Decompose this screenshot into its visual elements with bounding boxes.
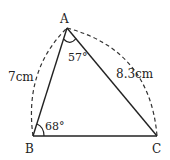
angle-arc-a <box>64 39 77 43</box>
vertex-label-a: A <box>59 12 69 26</box>
angle-label-a: 57° <box>68 51 88 64</box>
vertex-label-c: C <box>152 142 161 156</box>
angle-arc-b <box>37 124 44 136</box>
angle-label-b: 68° <box>45 120 65 133</box>
side-label-ac: 8.3cm <box>116 67 154 81</box>
vertex-label-b: B <box>25 142 34 156</box>
triangle-diagram: A B C 57° 68° 7cm 8.3cm <box>0 0 170 160</box>
side-ac <box>67 28 157 136</box>
side-label-ab: 7cm <box>8 70 34 84</box>
